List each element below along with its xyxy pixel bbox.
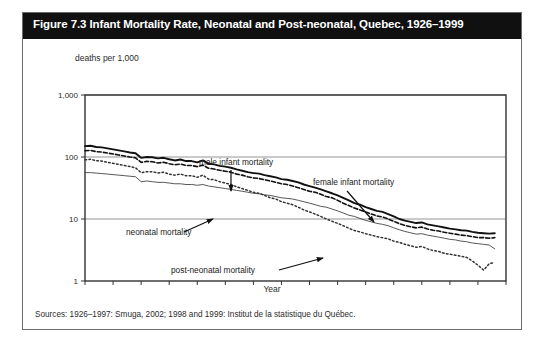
annotation-arrow: [279, 258, 323, 270]
x-axis-title: Year: [23, 284, 521, 294]
figure-title-bar: Figure 7.3 Infant Mortality Rate, Neonat…: [23, 13, 521, 39]
annotation-arrow: [184, 219, 213, 232]
figure-title: Figure 7.3 Infant Mortality Rate, Neonat…: [33, 18, 464, 30]
y-tick-label: 10: [69, 215, 78, 224]
y-tick-label: 1,000: [58, 91, 79, 100]
series-line-male-infant-mortality: [85, 146, 495, 234]
figure-source-note: Sources: 1926–1997: Smuga, 2002; 1998 an…: [35, 310, 355, 319]
figure-card: Figure 7.3 Infant Mortality Rate, Neonat…: [22, 12, 522, 330]
annotation-label: post-neonatal mortality: [171, 265, 256, 275]
annotation-label: male infant mortality: [199, 157, 274, 167]
infant-mortality-line-chart: 1926193119361941194619511956196119661971…: [23, 39, 523, 289]
y-tick-label: 100: [65, 153, 79, 162]
chart-series-lines: [85, 146, 495, 270]
annotation-label: female infant mortality: [313, 177, 395, 187]
annotation-label: neonatal mortality: [126, 227, 192, 237]
chart-y-ticks: 1,000100101: [58, 91, 85, 286]
series-line-neonatal-mortality: [85, 173, 495, 249]
plot-area-container: deaths per 1,000 19261931193619411946195…: [23, 39, 521, 331]
series-line-post-neonatal-mortality: [85, 159, 495, 270]
